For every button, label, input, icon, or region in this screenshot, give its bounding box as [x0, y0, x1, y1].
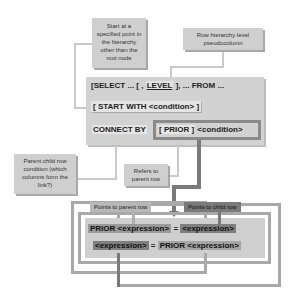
from-clause: ], ... FROM ...: [173, 81, 224, 90]
expression-line-2: <expression> = PRIOR <expression>: [93, 241, 241, 250]
condition-placeholder: <condition>: [197, 125, 242, 134]
start-with-clause: [ START WITH <condition> ]: [93, 102, 199, 111]
note-parent-child-text: Parent child row condition (which column…: [22, 158, 68, 188]
note-refers-parent-text: Refers to parent row: [132, 168, 160, 182]
connector-parent-child-h: [74, 178, 117, 180]
connector-refers-v: [177, 142, 179, 177]
syntax-line-select: [SELECT ... [ , LEVEL ], ... FROM ...: [91, 81, 224, 90]
connector-refers-h: [168, 175, 179, 177]
note-refers-parent: Refers to parent row: [124, 164, 168, 186]
connect-by-keyword: CONNECT BY: [92, 125, 147, 134]
expression-line-1: PRIOR <expression> = <expression>: [88, 224, 236, 233]
arrow-path-v1: [197, 140, 201, 188]
connector-start: [74, 43, 76, 109]
note-level-text: Row hierarchy level pseudocolumn: [197, 32, 249, 46]
tag-points-child-text: Points to child row: [188, 204, 237, 210]
connector-tag-child: [218, 212, 221, 224]
tag-points-parent: Points to parent row: [90, 202, 151, 212]
connector-tag-parent: [132, 212, 135, 224]
note-start-point: Start at a specified point in the hierar…: [92, 18, 146, 68]
syntax-line-connect-by: CONNECT BY: [92, 125, 147, 134]
expr1-prior: PRIOR <expression>: [88, 224, 171, 233]
connector-start-top: [74, 43, 94, 45]
expr2-equals: =: [149, 241, 158, 250]
connector-parent-child-v: [115, 145, 117, 180]
connector-level-h: [170, 66, 224, 68]
level-keyword: LEVEL: [146, 81, 174, 90]
expr2-lhs: <expression>: [93, 241, 149, 250]
syntax-line-start-with: [ START WITH <condition> ]: [91, 101, 201, 112]
select-clause: [SELECT ... [ ,: [91, 81, 146, 90]
note-level-pseudocolumn: Row hierarchy level pseudocolumn: [183, 28, 263, 50]
note-parent-child: Parent child row condition (which column…: [14, 154, 76, 194]
arrow-path-h: [172, 185, 201, 189]
expr2-prior: PRIOR <expression>: [158, 241, 241, 250]
tag-points-parent-text: Points to parent row: [94, 204, 147, 210]
expr1-equals: =: [171, 224, 180, 233]
tag-points-child: Points to child row: [184, 202, 241, 212]
note-start-point-text: Start at a specified point in the hierar…: [97, 23, 142, 61]
connector-expr2-lhs: [117, 253, 120, 287]
prior-keyword: [ PRIOR ]: [158, 125, 195, 134]
prior-condition: [ PRIOR ] <condition>: [158, 125, 243, 134]
expr1-rhs: <expression>: [180, 224, 236, 233]
connector-expr2-prior: [204, 253, 207, 274]
